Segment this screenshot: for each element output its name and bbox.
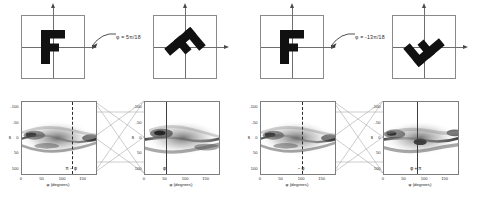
y-tick-label: -100	[10, 104, 18, 109]
y-tick-label: -50	[13, 120, 19, 125]
x-tick-label: 100	[421, 176, 428, 181]
sinogram-original-a: s -100 -50 0 50 100	[21, 101, 95, 173]
x-tick-label: 100	[59, 176, 66, 181]
rotation-label-a: φ = 5π/18	[116, 34, 141, 40]
y-tick-label: 0	[139, 135, 141, 140]
y-axis-label: s	[371, 135, 373, 140]
marker-line	[72, 102, 73, 174]
x-axis-label: φ (degrees)	[286, 182, 309, 187]
sinogram-image	[22, 102, 96, 174]
axis-arrow-right-icon	[463, 45, 468, 49]
y-tick-label: -50	[375, 120, 381, 125]
f-phantom-glyph-rotated	[402, 25, 446, 69]
plot-frame	[21, 101, 97, 175]
axis-arrow-up-icon	[290, 3, 294, 8]
marker-label: π − φ	[66, 166, 77, 171]
y-tick-label: -100	[249, 104, 257, 109]
y-tick-label: -50	[252, 120, 258, 125]
x-tick-label: 0	[20, 176, 22, 181]
y-tick-label: 50	[137, 149, 142, 154]
f-phantom-glyph	[31, 25, 75, 69]
f-phantom-glyph	[270, 25, 314, 69]
sinogram-image	[384, 102, 458, 174]
y-tick-label: 0	[16, 135, 18, 140]
y-tick-label: 100	[374, 165, 381, 170]
x-axis-label: φ (degrees)	[409, 182, 432, 187]
x-tick-label: 0	[259, 176, 261, 181]
marker-line	[166, 102, 167, 174]
marker-line	[417, 102, 418, 174]
x-tick-label: 150	[441, 176, 448, 181]
y-axis-label: s	[132, 135, 134, 140]
x-tick-label: 150	[79, 176, 86, 181]
y-tick-label: -100	[133, 104, 141, 109]
x-tick-label: 100	[298, 176, 305, 181]
y-tick-label: 0	[255, 135, 257, 140]
axis-arrow-up-icon	[51, 3, 55, 8]
axis-arrow-up-icon	[422, 3, 426, 8]
x-tick-label: 50	[39, 176, 44, 181]
x-tick-label: 150	[202, 176, 209, 181]
x-axis-label: φ (degrees)	[170, 182, 193, 187]
sinogram-rotated-b: s -100 -50 0 50 100	[383, 101, 457, 173]
phantom-original-b	[260, 15, 324, 79]
plot-frame	[144, 101, 220, 175]
y-tick-label: 100	[12, 165, 19, 170]
plot-frame	[383, 101, 459, 175]
x-tick-label: 0	[382, 176, 384, 181]
panel-b: φ = -13π/18 s -100 -50	[239, 0, 477, 204]
y-tick-label: 100	[135, 165, 142, 170]
sinogram-image	[145, 102, 219, 174]
phantom-rotated-a	[153, 15, 217, 79]
phantom-rotated-b	[392, 15, 456, 79]
axis-arrow-up-icon	[183, 3, 187, 8]
marker-line	[302, 102, 303, 174]
x-tick-label: 150	[318, 176, 325, 181]
y-axis-label: s	[9, 135, 11, 140]
x-tick-label: 50	[278, 176, 283, 181]
x-axis-label: φ (degrees)	[47, 182, 70, 187]
x-tick-label: 100	[182, 176, 189, 181]
y-axis-label: s	[248, 135, 250, 140]
phantom-original-a	[21, 15, 85, 79]
panel-a: φ = 5π/18 s -100 -50 0	[0, 0, 238, 204]
marker-label: φ + π	[410, 166, 421, 171]
y-tick-label: 100	[251, 165, 258, 170]
y-tick-label: 50	[253, 149, 258, 154]
marker-label: − φ	[298, 166, 305, 171]
y-tick-label: -50	[136, 120, 142, 125]
f-phantom-glyph-rotated	[163, 25, 207, 69]
y-tick-label: 50	[376, 149, 381, 154]
x-tick-label: 0	[143, 176, 145, 181]
x-tick-label: 50	[162, 176, 167, 181]
sinogram-rotated-a: s -100 -50 0 50 100	[144, 101, 218, 173]
plot-frame	[260, 101, 336, 175]
y-tick-label: 50	[14, 149, 19, 154]
sinogram-image	[261, 102, 335, 174]
marker-label: φ	[163, 166, 166, 171]
axis-arrow-right-icon	[224, 45, 229, 49]
y-tick-label: 0	[378, 135, 380, 140]
y-tick-label: -100	[372, 104, 380, 109]
rotation-label-b: φ = -13π/18	[355, 34, 385, 40]
figure-root: φ = 5π/18 s -100 -50 0	[0, 0, 477, 204]
sinogram-original-b: s -100 -50 0 50 100	[260, 101, 334, 173]
x-tick-label: 50	[401, 176, 406, 181]
